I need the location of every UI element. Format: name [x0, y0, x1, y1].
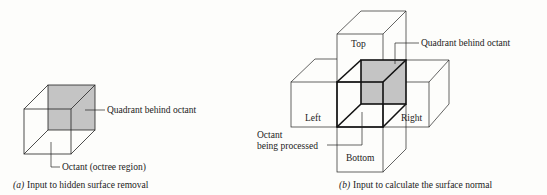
left-label: Left	[305, 113, 321, 123]
octant-label-b-line2: being processed	[257, 141, 318, 151]
top-label: Top	[351, 39, 366, 49]
right-label: Right	[401, 113, 422, 123]
caption-b: (b)Input to calculate the surface normal	[339, 180, 492, 191]
bottom-label: Bottom	[346, 153, 375, 163]
caption-a: (a)Input to hidden surface removal	[13, 180, 149, 191]
octant-label-a: Octant (octree region)	[62, 162, 146, 173]
quadrant-label-b: Quadrant behind octant	[421, 38, 511, 48]
figure-a-cube	[24, 85, 95, 154]
quadrant-label-a: Quadrant behind octant	[107, 105, 197, 115]
octant-label-b-line1: Octant	[257, 130, 283, 140]
figure-canvas: Quadrant behind octant Octant (octree re…	[0, 0, 547, 195]
bottom-neighbor	[337, 127, 383, 172]
